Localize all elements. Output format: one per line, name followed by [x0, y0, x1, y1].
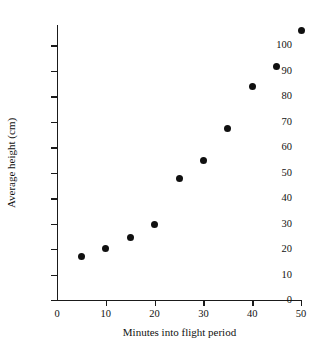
y-axis-tick-label: 60: [282, 142, 293, 153]
x-axis-tick-label: 50: [296, 309, 307, 320]
y-axis-tick-label: 50: [282, 167, 293, 178]
x-axis-tick: [106, 300, 107, 306]
y-axis-tick-label: 30: [282, 218, 293, 229]
y-axis-tick: [51, 173, 57, 174]
y-axis-tick-label: 100: [276, 40, 292, 51]
y-axis-tick: [51, 45, 57, 46]
data-point: [273, 63, 280, 70]
scatter-chart-figure: 010203040506070809010001020304050 Averag…: [0, 0, 317, 356]
x-axis-tick-label: 20: [149, 309, 160, 320]
plot-area: 010203040506070809010001020304050: [57, 25, 301, 300]
y-axis-label: Average height (cm): [5, 118, 17, 208]
data-point: [102, 245, 109, 252]
y-axis-tick: [51, 147, 57, 148]
y-axis-tick-label: 10: [282, 269, 293, 280]
data-point: [176, 175, 183, 182]
data-point: [151, 221, 158, 228]
y-axis-tick: [51, 275, 57, 276]
x-axis-tick: [252, 300, 253, 306]
y-axis-tick-label: 70: [282, 117, 293, 128]
data-point: [78, 253, 85, 260]
data-point: [298, 27, 305, 34]
y-axis-tick-label: 80: [282, 91, 293, 102]
y-axis-tick: [51, 249, 57, 250]
y-axis-tick: [51, 198, 57, 199]
y-axis-label-wrapper: Average height (cm): [0, 25, 22, 301]
x-axis-tick-label: 30: [198, 309, 209, 320]
y-axis-tick-label: 90: [282, 66, 293, 77]
y-axis-tick: [51, 96, 57, 97]
y-axis-tick-label: 40: [282, 193, 293, 204]
x-axis-tick-label: 0: [54, 309, 59, 320]
x-axis-tick: [203, 300, 204, 306]
data-point: [127, 234, 134, 241]
y-axis-tick: [51, 71, 57, 72]
y-axis-tick-label: 20: [282, 244, 293, 255]
y-axis-tick: [51, 224, 57, 225]
x-axis-tick: [155, 300, 156, 306]
data-point: [200, 157, 207, 164]
data-point: [249, 83, 256, 90]
y-axis-tick: [51, 122, 57, 123]
y-axis-tick-label: 0: [287, 295, 292, 306]
x-axis-tick: [301, 300, 302, 306]
x-axis-line: [57, 300, 302, 301]
y-axis-tick: [51, 300, 57, 301]
x-axis-tick-label: 40: [247, 309, 258, 320]
x-axis-tick-label: 10: [101, 309, 112, 320]
data-point: [224, 125, 231, 132]
x-axis-label: Minutes into flight period: [57, 326, 302, 338]
